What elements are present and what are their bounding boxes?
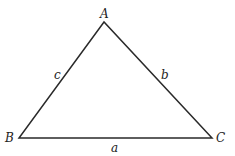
vertex-label-a: A: [99, 7, 109, 21]
triangle-diagram: A B C a b c: [0, 0, 235, 156]
side-label-c: c: [54, 68, 61, 82]
vertex-label-b: B: [4, 131, 14, 145]
side-label-a: a: [111, 141, 118, 155]
side-label-b: b: [161, 68, 169, 82]
triangle-abc: [19, 22, 212, 138]
vertex-label-c: C: [216, 131, 225, 145]
